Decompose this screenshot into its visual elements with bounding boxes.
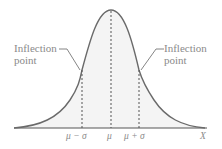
normal-curve-diagram	[0, 0, 222, 149]
inflection-label-right: Inflection point	[164, 42, 207, 66]
tick-mu-plus-sigma: μ + σ	[124, 131, 145, 141]
inflection-label-left: Inflection point	[14, 42, 57, 66]
inflection-label-left-line1: Inflection	[14, 42, 57, 54]
inflection-label-right-line2: point	[164, 54, 207, 66]
tick-mu-minus-sigma: μ − σ	[66, 131, 87, 141]
leader-line-right	[141, 49, 164, 70]
axis-label-x: X	[200, 131, 206, 141]
curve-fill	[14, 10, 205, 128]
leader-line-left	[59, 49, 80, 70]
inflection-label-left-line2: point	[14, 54, 57, 66]
tick-mu: μ	[107, 131, 112, 141]
inflection-label-right-line1: Inflection	[164, 42, 207, 54]
